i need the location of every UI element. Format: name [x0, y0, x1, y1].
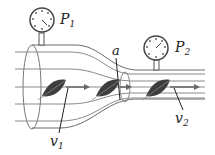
leaf-1	[38, 80, 90, 100]
label-v2: v2	[175, 110, 189, 128]
arrow-icon	[194, 84, 200, 90]
leaf-3	[142, 80, 200, 100]
pointer-v1	[59, 88, 68, 133]
label-p1: P1	[59, 11, 75, 29]
label-a: a	[112, 43, 120, 58]
pressure-gauge-p1	[30, 8, 54, 45]
pressure-gauge-p2	[144, 36, 168, 70]
label-p2: P2	[174, 39, 190, 57]
label-v1: v1	[50, 133, 64, 151]
leaf-2	[92, 80, 132, 100]
arrow-icon	[126, 84, 132, 90]
arrow-icon	[84, 84, 90, 90]
venturi-diagram: P1 P2 a v1 v2	[0, 0, 215, 155]
